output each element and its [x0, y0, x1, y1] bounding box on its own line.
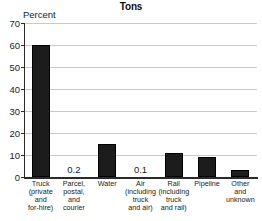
- y-axis-label: Percent: [23, 9, 56, 20]
- bar: [165, 153, 183, 177]
- y-axis-line: [24, 23, 25, 178]
- x-axis-label-line: and rail): [152, 204, 196, 212]
- bar: [32, 45, 50, 177]
- gridline: [24, 111, 257, 112]
- y-tick-label: 70: [9, 18, 20, 29]
- y-tick-label: 30: [9, 106, 20, 117]
- gridline: [24, 23, 257, 24]
- y-tick-label: 50: [9, 62, 20, 73]
- y-tick-label: 20: [9, 128, 20, 139]
- gridline: [24, 45, 257, 46]
- bar-value-label: 0.1: [134, 164, 147, 175]
- bar-chart: Tons Percent 706050403020100 0.20.1 Truc…: [0, 0, 262, 221]
- bar: [98, 144, 116, 177]
- x-axis-category-label: Otherandunknown: [218, 180, 262, 204]
- gridline: [24, 155, 257, 156]
- y-tick-label: 60: [9, 40, 20, 51]
- x-axis-labels: Truck(privateandfor-hire)Parcel,postal,a…: [24, 180, 258, 221]
- y-tick-label: 40: [9, 84, 20, 95]
- x-axis-label-line: unknown: [218, 196, 262, 204]
- y-tick-label: 10: [9, 150, 20, 161]
- bar: [198, 157, 216, 177]
- x-axis-label-line: courier: [52, 204, 96, 212]
- bar-value-label: 0.2: [67, 164, 80, 175]
- gridline: [24, 133, 257, 134]
- gridline: [24, 89, 257, 90]
- bar: [231, 170, 249, 177]
- plot-area: 706050403020100 0.20.1: [24, 23, 257, 177]
- gridline: [24, 67, 257, 68]
